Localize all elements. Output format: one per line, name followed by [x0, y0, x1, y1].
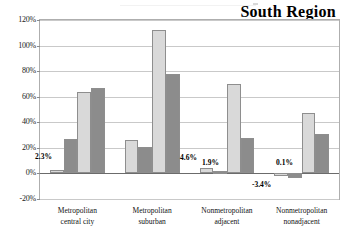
y-tick-mark — [37, 20, 40, 21]
bar — [125, 140, 139, 173]
bar — [200, 168, 214, 174]
bar-data-label: 2.3% — [35, 152, 52, 161]
y-tick-mark — [37, 148, 40, 149]
x-axis-category-label: Nonmetropolitannonadjacent — [257, 205, 344, 227]
bar — [288, 173, 302, 177]
y-tick-mark — [37, 97, 40, 98]
gridline-neg20 — [40, 199, 339, 200]
bar — [77, 92, 91, 174]
bar — [152, 30, 166, 173]
y-tick-mark — [37, 46, 40, 47]
gridline-80 — [40, 71, 339, 72]
gridline-100 — [40, 46, 339, 47]
y-tick-mark — [37, 122, 40, 123]
bar — [315, 134, 329, 174]
category-label-line: Nonmetropolitan — [257, 205, 344, 216]
bar — [227, 84, 241, 174]
y-tick-label: 100% — [2, 41, 36, 50]
bar — [302, 113, 316, 173]
bar — [91, 88, 105, 174]
y-tick-mark — [37, 71, 40, 72]
bar-data-label: -3.4% — [252, 180, 271, 189]
chart-container: South Region -20%0%20%40%60%80%100%120% … — [0, 0, 344, 245]
y-tick-mark — [37, 199, 40, 200]
y-tick-label: -20% — [2, 194, 36, 203]
bar — [274, 173, 288, 176]
y-tick-label: 20% — [2, 143, 36, 152]
plot-area — [39, 19, 340, 200]
bar-data-label: 0.1% — [276, 158, 293, 167]
bar-data-label: 1.9% — [202, 158, 219, 167]
y-tick-label: 40% — [2, 117, 36, 126]
y-tick-label: 80% — [2, 66, 36, 75]
bar-data-label: 4.6% — [180, 153, 197, 162]
bar — [213, 171, 227, 174]
y-tick-label: 0% — [2, 168, 36, 177]
y-tick-mark — [37, 173, 40, 174]
bar — [241, 138, 255, 174]
category-label-line: nonadjacent — [257, 216, 344, 227]
y-tick-label: 120% — [2, 15, 36, 24]
bar — [50, 170, 64, 173]
bar — [166, 74, 180, 174]
y-tick-label: 60% — [2, 92, 36, 101]
gridline-120 — [40, 20, 339, 21]
top-artifact-line — [120, 5, 256, 6]
bar — [138, 147, 152, 174]
bar — [64, 139, 78, 174]
